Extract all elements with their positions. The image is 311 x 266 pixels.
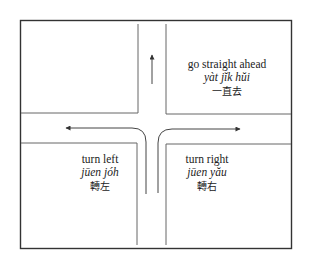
label-romanization: yàt jĭk hŭi xyxy=(172,71,282,84)
label-go-straight: go straight ahead yàt jĭk hŭi 一直去 xyxy=(172,58,282,98)
intersection-diagram xyxy=(0,0,311,266)
label-english: turn left xyxy=(65,153,135,166)
label-turn-right: turn right jūen yău 轉右 xyxy=(172,153,242,193)
label-english: go straight ahead xyxy=(172,58,282,71)
block-top-left-edge xyxy=(21,24,138,113)
label-romanization: jūen jóh xyxy=(65,166,135,179)
label-chinese: 轉左 xyxy=(65,180,135,193)
label-romanization: jūen yău xyxy=(172,166,242,179)
label-turn-left: turn left jūen jóh 轉左 xyxy=(65,153,135,193)
label-chinese: 轉右 xyxy=(172,180,242,193)
outer-frame xyxy=(21,21,292,249)
label-chinese: 一直去 xyxy=(172,85,282,98)
label-english: turn right xyxy=(172,153,242,166)
